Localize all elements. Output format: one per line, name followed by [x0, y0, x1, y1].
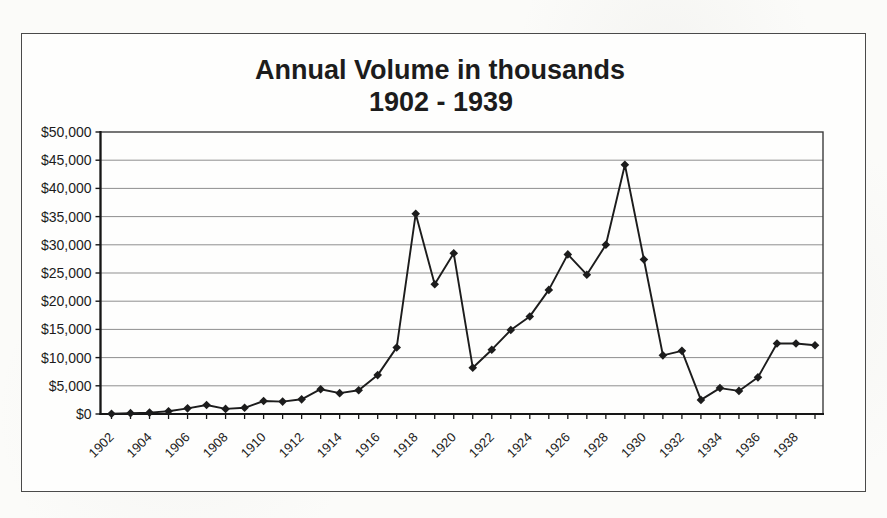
- scanned-page: Annual Volume in thousands 1902 - 1939 $…: [0, 0, 887, 518]
- chart-subtitle: 1902 - 1939: [369, 87, 513, 117]
- data-point-marker: [278, 397, 287, 406]
- data-point-marker: [107, 409, 116, 418]
- data-point-marker: [183, 404, 192, 413]
- x-tick-label: 1938: [770, 430, 801, 461]
- y-tick-label: $25,000: [41, 265, 92, 281]
- x-tick-label: 1934: [694, 430, 725, 461]
- data-point-marker: [678, 347, 687, 356]
- y-tick-label: $35,000: [41, 209, 92, 225]
- x-tick-label: 1904: [124, 430, 155, 461]
- x-tick-label: 1936: [732, 430, 763, 461]
- data-point-marker: [145, 408, 154, 417]
- x-tick-label: 1902: [86, 430, 117, 461]
- data-point-marker: [240, 403, 249, 412]
- y-tick-label: $45,000: [41, 152, 92, 168]
- x-tick-label: 1930: [618, 430, 649, 461]
- volume-line-chart: Annual Volume in thousands 1902 - 1939 $…: [0, 0, 887, 518]
- chart-title: Annual Volume in thousands: [255, 55, 625, 85]
- data-point-marker: [640, 255, 649, 264]
- data-point-marker: [773, 339, 782, 348]
- x-tick-label: 1914: [314, 430, 345, 461]
- data-point-marker: [297, 395, 306, 404]
- data-point-marker: [335, 389, 344, 398]
- data-point-marker: [659, 351, 668, 360]
- plot-area: $0$5,000$10,000$15,000$20,000$25,000$30,…: [41, 124, 824, 461]
- y-tick-label: $30,000: [41, 237, 92, 253]
- x-tick-label: 1912: [276, 430, 307, 461]
- x-tick-label: 1916: [352, 430, 383, 461]
- x-tick-label: 1908: [200, 430, 231, 461]
- data-point-marker: [697, 396, 706, 405]
- x-tick-label: 1922: [466, 430, 497, 461]
- y-tick-label: $0: [76, 406, 92, 422]
- data-point-marker: [602, 241, 611, 250]
- data-point-marker: [792, 339, 801, 348]
- data-point-marker: [259, 397, 268, 406]
- x-tick-label: 1928: [580, 430, 611, 461]
- y-tick-label: $15,000: [41, 321, 92, 337]
- series-line: [112, 165, 816, 414]
- y-tick-label: $10,000: [41, 350, 92, 366]
- data-point-marker: [202, 401, 211, 410]
- y-tick-label: $40,000: [41, 180, 92, 196]
- x-tick-label: 1920: [428, 430, 459, 461]
- y-tick-label: $20,000: [41, 293, 92, 309]
- data-point-marker: [126, 409, 135, 418]
- x-tick-label: 1918: [390, 430, 421, 461]
- x-tick-label: 1924: [504, 430, 535, 461]
- x-tick-label: 1906: [162, 430, 193, 461]
- y-tick-label: $5,000: [49, 378, 92, 394]
- data-point-marker: [221, 405, 230, 414]
- x-tick-label: 1926: [542, 430, 573, 461]
- data-point-marker: [449, 249, 458, 258]
- x-tick-label: 1910: [238, 430, 269, 461]
- data-point-marker: [811, 341, 820, 350]
- x-tick-label: 1932: [656, 430, 687, 461]
- data-point-marker: [430, 280, 439, 289]
- data-point-marker: [621, 160, 630, 169]
- y-tick-label: $50,000: [41, 124, 92, 140]
